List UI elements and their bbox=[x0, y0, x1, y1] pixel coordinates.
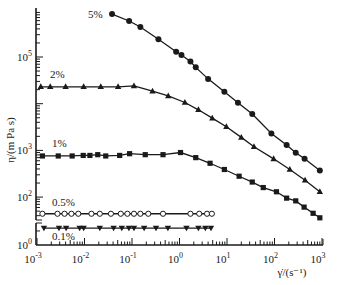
series-label: 0.5% bbox=[52, 196, 75, 208]
data-point bbox=[284, 196, 289, 201]
data-point bbox=[97, 211, 102, 216]
data-point bbox=[284, 142, 290, 148]
data-point bbox=[117, 153, 122, 158]
data-point bbox=[131, 211, 136, 216]
data-point bbox=[270, 155, 276, 161]
y-tick-label: 105 bbox=[17, 49, 32, 63]
data-point bbox=[250, 179, 255, 184]
series-label: 0.1% bbox=[52, 230, 75, 242]
x-tick-label: 103 bbox=[311, 251, 326, 265]
series-label: 1% bbox=[52, 137, 67, 149]
data-point bbox=[62, 211, 67, 216]
data-point bbox=[55, 211, 60, 216]
data-point bbox=[103, 153, 108, 158]
data-point bbox=[223, 123, 229, 129]
data-point bbox=[40, 211, 45, 216]
data-point bbox=[302, 177, 308, 183]
x-tick-label: 101 bbox=[216, 251, 231, 265]
data-point bbox=[302, 205, 307, 210]
data-point bbox=[146, 211, 151, 216]
data-point bbox=[160, 152, 165, 157]
data-point bbox=[178, 52, 184, 58]
data-point bbox=[249, 111, 255, 117]
x-tick-label: 102 bbox=[263, 251, 278, 265]
data-point bbox=[126, 18, 132, 24]
data-point bbox=[268, 131, 274, 137]
x-tick-label: 10-2 bbox=[72, 251, 90, 265]
data-point bbox=[311, 211, 316, 216]
data-point bbox=[89, 211, 94, 216]
data-point bbox=[137, 24, 143, 30]
data-point bbox=[238, 134, 244, 140]
data-point bbox=[95, 152, 100, 157]
data-point bbox=[188, 211, 193, 216]
data-point bbox=[155, 36, 161, 42]
x-axis-label: γ̇/(s⁻¹) bbox=[277, 266, 307, 279]
data-point bbox=[187, 59, 193, 65]
data-point bbox=[237, 174, 242, 179]
data-point bbox=[222, 167, 227, 172]
data-point bbox=[76, 211, 81, 216]
x-tick-label: 100 bbox=[168, 251, 183, 265]
data-point bbox=[127, 151, 132, 156]
data-point bbox=[261, 185, 266, 190]
data-point bbox=[197, 211, 202, 216]
x-tick-label: 10-1 bbox=[119, 251, 137, 265]
data-point bbox=[235, 100, 241, 106]
y-tick-label: 100 bbox=[17, 237, 32, 251]
data-point bbox=[69, 211, 74, 216]
x-tick-label: 10-3 bbox=[24, 251, 42, 265]
series-label: 2% bbox=[50, 68, 65, 80]
data-point bbox=[287, 166, 293, 172]
chart: 10-310-210-1100101102103100102103105 5%2… bbox=[0, 0, 338, 285]
data-point bbox=[81, 153, 86, 158]
data-point bbox=[207, 161, 212, 166]
data-point bbox=[108, 211, 113, 216]
ticks bbox=[36, 12, 322, 245]
data-point bbox=[293, 150, 299, 156]
data-point bbox=[193, 155, 198, 160]
data-point bbox=[274, 189, 279, 194]
y-tick-label: 102 bbox=[17, 189, 32, 203]
data-point bbox=[87, 153, 92, 158]
data-point bbox=[317, 188, 323, 194]
series-labels: 5%2%1%0.5%0.1% bbox=[50, 8, 103, 242]
data-point bbox=[209, 211, 214, 216]
data-point bbox=[293, 198, 298, 203]
data-point bbox=[40, 153, 45, 158]
data-point bbox=[173, 49, 179, 55]
data-point bbox=[317, 215, 322, 220]
data-point bbox=[205, 76, 211, 82]
data-point bbox=[178, 150, 183, 155]
data-point bbox=[160, 211, 165, 216]
data-point bbox=[143, 152, 148, 157]
data-point bbox=[118, 211, 123, 216]
series-label: 5% bbox=[88, 8, 103, 20]
data-point bbox=[317, 168, 323, 174]
data-point bbox=[70, 153, 75, 158]
data-point bbox=[131, 82, 137, 88]
data-point bbox=[302, 156, 308, 162]
data-point bbox=[109, 11, 115, 17]
data-point bbox=[138, 211, 143, 216]
series-curves bbox=[41, 14, 320, 228]
data-point bbox=[221, 89, 227, 95]
data-point bbox=[125, 211, 130, 216]
series-markers bbox=[38, 11, 323, 231]
data-point bbox=[193, 64, 199, 70]
data-point bbox=[251, 143, 257, 149]
y-axis-label: η/(m Pa s) bbox=[4, 117, 17, 163]
axes bbox=[36, 8, 323, 245]
data-point bbox=[56, 153, 61, 158]
y-tick-label: 103 bbox=[17, 142, 32, 156]
